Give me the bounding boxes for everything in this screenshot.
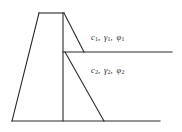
soil-layer-2-parameters-label: c2, γ2, φ2 [91, 66, 125, 75]
soil-layer-1-parameters-label: c1, γ1, φ1 [91, 33, 125, 42]
wall-front-face-line [12, 13, 39, 121]
layer-1-friction-angle-subscript: 1 [122, 36, 125, 42]
failure-plane-lower-line [65, 52, 104, 121]
layer-2-separator-1: , [98, 65, 101, 75]
failure-plane-upper-line [64, 13, 84, 52]
layer-2-friction-angle-subscript: 2 [122, 69, 125, 75]
layer-1-separator-2: , [111, 32, 114, 42]
layer-2-separator-2: , [111, 65, 114, 75]
retaining-wall-diagram: c1, γ1, φ1 c2, γ2, φ2 [0, 0, 182, 132]
layer-1-separator-1: , [98, 32, 101, 42]
